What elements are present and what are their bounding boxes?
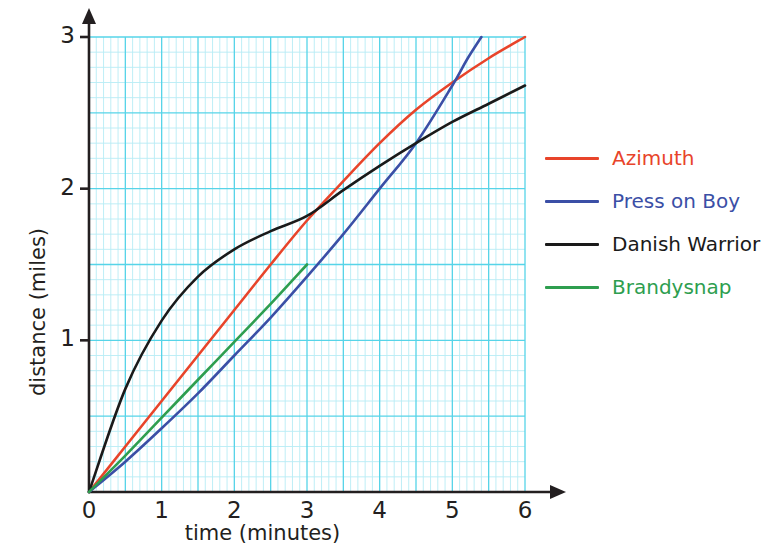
legend-item: Danish Warrior — [545, 231, 760, 257]
legend-color-swatch — [545, 243, 599, 246]
legend-label: Brandysnap — [612, 277, 731, 297]
axis-tick-marks — [80, 37, 89, 340]
legend-item: Brandysnap — [545, 274, 760, 300]
x-tick-label: 0 — [74, 497, 104, 523]
legend-item: Press on Boy — [545, 188, 760, 214]
legend-label: Azimuth — [612, 148, 694, 168]
legend-color-swatch — [545, 157, 599, 160]
x-tick-label: 3 — [292, 497, 322, 523]
x-tick-label: 2 — [219, 497, 249, 523]
chart-legend: AzimuthPress on BoyDanish WarriorBrandys… — [545, 145, 760, 300]
y-axis-title: distance (miles) — [26, 152, 50, 472]
legend-item: Azimuth — [545, 145, 760, 171]
legend-label: Press on Boy — [612, 191, 740, 211]
x-tick-label: 6 — [510, 497, 540, 523]
legend-color-swatch — [545, 286, 599, 289]
legend-color-swatch — [545, 200, 599, 203]
x-tick-label: 4 — [365, 497, 395, 523]
x-axis-title: time (minutes) — [0, 521, 525, 545]
x-tick-label: 5 — [437, 497, 467, 523]
legend-label: Danish Warrior — [612, 234, 760, 254]
chart-figure: 0123456 123 time (minutes) distance (mil… — [0, 0, 782, 555]
x-tick-label: 1 — [147, 497, 177, 523]
y-tick-label: 3 — [45, 22, 75, 48]
